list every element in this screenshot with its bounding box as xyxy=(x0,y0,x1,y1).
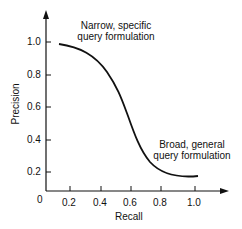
x-axis-label: Recall xyxy=(115,211,143,222)
x-tick-label: 1.0 xyxy=(187,197,201,208)
origin-label: 0 xyxy=(37,194,43,205)
y-tick-label: 1.0 xyxy=(27,36,41,47)
y-tick-label: 0.6 xyxy=(27,101,41,112)
x-tick-label: 0.4 xyxy=(93,197,107,208)
annotation-broad-line1: Broad, general xyxy=(150,139,234,150)
y-axis-label: Precision xyxy=(10,85,21,125)
x-tick-label: 0.2 xyxy=(62,197,76,208)
x-tick-label: 0.6 xyxy=(123,197,137,208)
y-tick-label: 0.8 xyxy=(27,69,41,80)
annotation-narrow: Narrow, specific query formulation xyxy=(66,20,166,42)
y-axis-arrow-icon xyxy=(43,10,49,19)
x-tick-label: 0.8 xyxy=(153,197,167,208)
y-tick-label: 0.4 xyxy=(27,134,41,145)
x-ticks xyxy=(70,186,195,191)
x-axis-arrow-icon xyxy=(220,188,229,194)
y-ticks xyxy=(46,42,51,172)
y-tick-label: 0.2 xyxy=(27,166,41,177)
annotation-narrow-line1: Narrow, specific xyxy=(66,20,166,31)
annotation-broad-line2: query formulation xyxy=(150,150,234,161)
annotation-narrow-line2: query formulation xyxy=(66,31,166,42)
annotation-broad: Broad, general query formulation xyxy=(150,139,234,161)
